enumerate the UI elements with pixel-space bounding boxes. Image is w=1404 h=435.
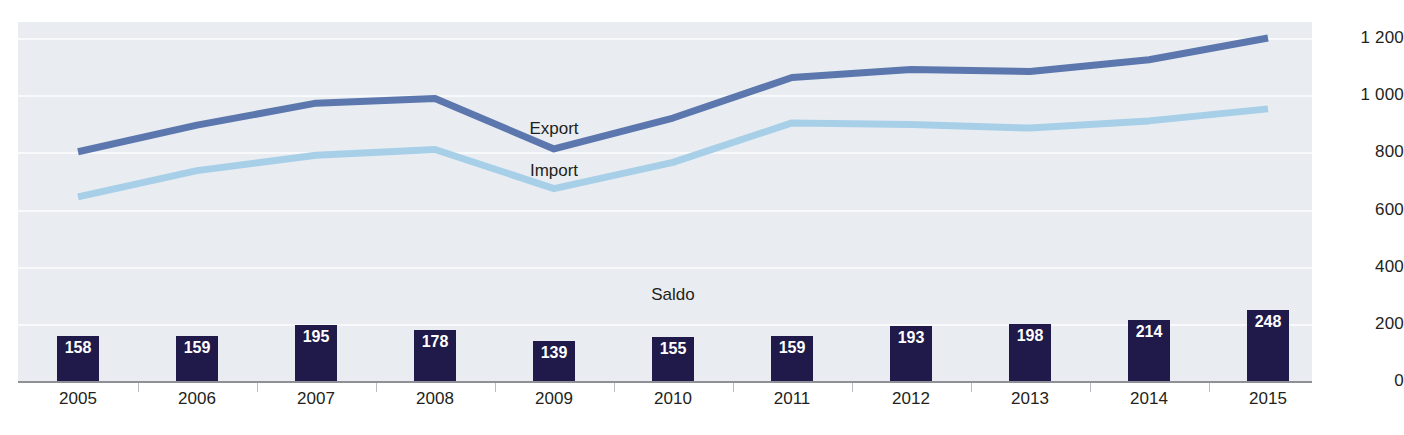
y-axis-tick-label: 200 [1322,314,1404,334]
y-axis-tick-label: 400 [1322,257,1404,277]
y-axis-tick-label: 1 000 [1322,85,1404,105]
series-label-saldo: Saldo [651,285,694,305]
x-axis-tick-label: 2010 [613,389,733,409]
saldo-bar-value: 248 [1238,313,1298,331]
series-label-export: Export [529,119,578,139]
x-axis-tick-label: 2009 [494,389,614,409]
chart-container: 158159195178139155159193198214248 200520… [0,0,1404,435]
saldo-bar-value: 214 [1119,323,1179,341]
series-label-import: Import [530,161,578,181]
x-axis-tick-label: 2005 [18,389,138,409]
saldo-bar-value: 159 [762,339,822,357]
saldo-bar-value: 178 [405,333,465,351]
x-axis-tick-label: 2006 [137,389,257,409]
saldo-bar-value: 155 [643,340,703,358]
x-axis-tick-label: 2011 [732,389,852,409]
x-axis-tick-label: 2007 [256,389,376,409]
saldo-bar-value: 158 [48,339,108,357]
y-axis-labels: 02004006008001 0001 200 [1322,0,1404,435]
y-axis-tick-label: 600 [1322,200,1404,220]
line-series-import [78,109,1268,197]
x-axis-line [18,381,1312,383]
x-axis-tick-label: 2012 [851,389,971,409]
saldo-bar-value: 195 [286,328,346,346]
y-axis-tick-label: 0 [1322,371,1404,391]
y-axis-tick-label: 1 200 [1322,28,1404,48]
y-axis-tick-label: 800 [1322,142,1404,162]
x-axis-tick-label: 2008 [375,389,495,409]
x-axis-tick-label: 2013 [970,389,1090,409]
saldo-bar-value: 198 [1000,327,1060,345]
saldo-bar-value: 193 [881,329,941,347]
x-axis-tick-label: 2015 [1208,389,1328,409]
saldo-bar-value: 159 [167,339,227,357]
saldo-bar-value: 139 [524,344,584,362]
x-axis-tick-label: 2014 [1089,389,1209,409]
line-series-export [78,38,1268,152]
